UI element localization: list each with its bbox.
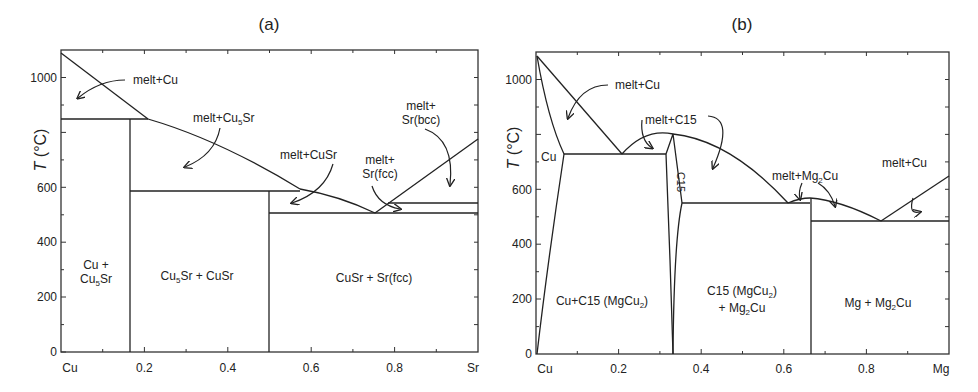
label-melt-cu: melt+Cu [133, 73, 178, 87]
label-mg-mg2cu: Mg + Mg2Cu [845, 296, 912, 312]
x-tick-label: 0.2 [610, 362, 627, 376]
panel-a-x-tick-labels: Cu 0.2 0.4 0.6 0.8 Sr [62, 361, 479, 375]
label-melt-cusr: melt+CuSr [280, 148, 337, 162]
y-tick-label: 400 [37, 235, 57, 249]
panel-a-y-tick-labels: 0 200 400 600 1000 [30, 71, 57, 359]
label-melt-cu-right: melt+Cu [882, 156, 927, 170]
x-tick-label: Cu [537, 362, 552, 376]
panel-a-title: (a) [259, 15, 280, 34]
panel-a-arrows [78, 80, 451, 209]
label-c15-mg2cu-line1: C15 (MgCu2) [707, 284, 777, 300]
label-cu-cu5sr-line2: Cu5Sr [80, 272, 112, 288]
label-melt-cu5sr: melt+Cu5Sr [193, 111, 254, 127]
panel-b-region-labels: melt+Cu melt+C15 Cu C15 melt+Mg2Cu melt+… [541, 78, 927, 317]
panel-a-phase-boundaries [61, 53, 478, 352]
label-melt-mg2cu: melt+Mg2Cu [772, 169, 838, 185]
y-tick-label: 600 [37, 181, 57, 195]
label-melt-srbcc-line1: melt+ [406, 99, 436, 113]
y-tick-label: 600 [512, 183, 532, 197]
label-cu5sr-cusr: Cu5Sr + CuSr [161, 269, 234, 285]
panel-b-title: (b) [732, 15, 753, 34]
x-tick-label: 0.4 [693, 362, 710, 376]
y-tick-label: 1000 [30, 71, 57, 85]
label-melt-srbcc-line2: Sr(bcc) [402, 113, 441, 127]
y-tick-label: 1000 [505, 73, 532, 87]
label-c15: C15 [675, 172, 687, 192]
figure: (a) [0, 0, 978, 392]
label-cusr-srfcc: CuSr + Sr(fcc) [336, 271, 412, 285]
y-tick-label: 400 [512, 237, 532, 251]
label-cu-cu5sr-line1: Cu + [83, 258, 109, 272]
y-tick-label: 0 [525, 347, 532, 361]
x-tick-label: 0.4 [219, 361, 236, 375]
label-c15-mg2cu-line2: + Mg2Cu [719, 301, 766, 317]
x-tick-label: 0.6 [303, 361, 320, 375]
y-tick-label: 200 [37, 290, 57, 304]
label-melt-srfcc-line1: melt+ [365, 153, 395, 167]
panel-a-region-labels: melt+Cu melt+Cu5Sr melt+CuSr melt+ Sr(fc… [80, 73, 440, 288]
x-tick-label: 0.6 [775, 362, 792, 376]
panel-b-x-tick-labels: Cu 0.2 0.4 0.6 0.8 Mg [537, 362, 949, 376]
panel-b-y-tick-labels: 0 200 400 600 1000 [505, 73, 532, 361]
label-cu-c15: Cu+C15 (MgCu2) [556, 294, 648, 310]
x-tick-label: Mg [933, 362, 950, 376]
panel-b-y-axis-label: T (°C) [505, 127, 522, 170]
y-tick-label: 0 [50, 345, 57, 359]
x-tick-label: 0.8 [858, 362, 875, 376]
x-tick-label: Cu [62, 361, 77, 375]
panel-b: (b) 0 200 [505, 15, 949, 376]
panel-a-y-axis-label: T (°C) [32, 129, 49, 172]
y-tick-label: 200 [512, 292, 532, 306]
x-tick-label: 0.2 [136, 361, 153, 375]
x-tick-label: 0.8 [386, 361, 403, 375]
label-melt-cu: melt+Cu [615, 78, 660, 92]
label-melt-srfcc-line2: Sr(fcc) [362, 167, 397, 181]
x-tick-label: Sr [467, 361, 479, 375]
panel-b-arrows [568, 85, 920, 212]
label-cu: Cu [541, 150, 556, 164]
label-melt-c15: melt+C15 [645, 113, 697, 127]
panel-a: (a) [30, 15, 479, 375]
